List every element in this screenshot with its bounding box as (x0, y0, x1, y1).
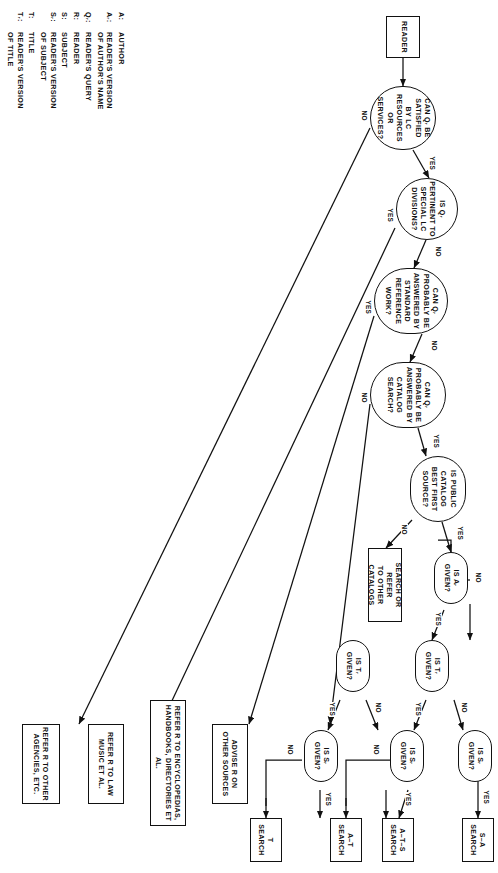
terminal-a-t-search[interactable]: A–T SEARCH (330, 818, 362, 862)
terminal-advise-other-sources-2[interactable]: ADVISE R ON OTHER SOURCES (212, 724, 248, 804)
edge-label-subject2-yes: YES (483, 790, 490, 805)
legend-key: S: (60, 12, 70, 32)
terminal-s-a-search-label: S–A SEARCH (469, 824, 487, 855)
edge-label-special-yes: YES (387, 208, 394, 223)
legend-item: Aᵣ: READER'S VERSION OF AUTHOR'S NAME (95, 12, 114, 312)
edge-label-catalog-yes: YES (433, 434, 440, 449)
flowchart-canvas: READER CAN Qᵣ BE SATISFIED BY LC RESOURC… (0, 0, 498, 873)
edge-label-subject3-no: NO (287, 744, 294, 755)
legend-item: T: TITLE (27, 12, 37, 312)
legend-key: Tᵣ: (15, 12, 25, 32)
edge-label-subject3-yes: YES (325, 792, 332, 807)
legend-value: AUTHOR (116, 32, 126, 312)
node-is-title-given-2[interactable]: IS Tᵣ GIVEN? (336, 640, 370, 692)
terminal-search-or-refer-catalogs-label: SEARCH OR REFER TO OTHER CATALOGS (367, 551, 404, 619)
edge-label-subject1-no: NO (373, 744, 380, 755)
diagram-rotation-wrapper: READER CAN Qᵣ BE SATISFIED BY LC RESOURC… (0, 0, 498, 873)
terminal-refer-encyclopedias[interactable]: REFER R TO ENCYCLOPEDIAS, HANDBOOKS, DIR… (150, 700, 186, 826)
node-is-subject-given-2-label: IS Sᵣ GIVEN? (466, 733, 485, 779)
terminal-refer-other-agencies[interactable]: REFER R TO OTHER AGENCIES, ETC. (22, 724, 60, 804)
legend-item: Sᵣ: READER'S VERSION OF SUBJECT (38, 12, 57, 312)
node-can-query-be-satisfied[interactable]: CAN Qᵣ BE SATISFIED BY LC RESOURCES OR S… (370, 86, 436, 150)
node-public-catalog-best-first-source-label: IS PUBLIC CATALOG BEST FIRST SOURCE? (419, 459, 456, 519)
node-reader[interactable]: READER (386, 16, 420, 58)
edge-label-public-yes: YES (457, 526, 464, 541)
node-is-title-given-1[interactable]: IS Tᵣ GIVEN? (415, 640, 449, 692)
node-is-subject-given-1[interactable]: IS Sᵣ GIVEN? (390, 730, 424, 782)
terminal-refer-law-music-label: REFER R TO LAW MUSIC ET AL. (97, 732, 115, 796)
node-is-title-given-2-label: IS Tᵣ GIVEN? (344, 643, 363, 689)
edge-label-satisfied-yes: YES (429, 156, 436, 171)
legend-value: READER'S VERSION OF SUBJECT (38, 32, 57, 312)
node-is-author-given-label: IS Aᵣ GIVEN? (442, 555, 461, 601)
node-can-query-be-satisfied-label: CAN Qᵣ BE SATISFIED BY LC RESOURCES OR S… (375, 89, 431, 147)
node-is-title-given-1-label: IS Tᵣ GIVEN? (423, 643, 442, 689)
node-standard-reference-work[interactable]: CAN Qᵣ PROBABLY BE ANSWERED BY STANDARD … (374, 268, 448, 334)
edge-label-standard-yes: YES (365, 300, 372, 315)
legend-item: R: READER (71, 12, 81, 312)
terminal-refer-other-agencies-label: REFER R TO OTHER AGENCIES, ETC. (32, 727, 50, 801)
edge-label-public-no: NO (401, 524, 408, 535)
edge-label-catalog-no: NO (361, 392, 368, 403)
legend-value: READER'S VERSION OF TITLE (5, 32, 24, 312)
terminal-a-t-s-search[interactable]: A–T–S SEARCH (382, 818, 414, 862)
node-is-subject-given-3-label: IS Sᵣ GIVEN? (312, 733, 331, 779)
edge-label-satisfied-no: NO (361, 110, 368, 121)
legend-value: READER'S QUERY (83, 32, 93, 312)
edge-label-title2-no: NO (375, 702, 382, 713)
edge-label-subject1-yes: YES (405, 792, 412, 807)
node-catalog-search-label: CAN Qᵣ PROBABLY BE ANSWERED BY CATALOG S… (385, 365, 432, 425)
edge-label-author-yes: YES (435, 612, 442, 627)
legend-block: A: AUTHOR Aᵣ: READER'S VERSION OF AUTHOR… (3, 12, 126, 312)
terminal-a-t-s-search-label: A–T–S SEARCH (389, 824, 407, 855)
legend-value: TITLE (27, 32, 37, 312)
terminal-s-a-search[interactable]: S–A SEARCH (462, 818, 494, 862)
terminal-t-search[interactable]: T SEARCH (250, 818, 282, 862)
legend-key: Qᵣ: (83, 12, 93, 32)
node-standard-reference-work-label: CAN Qᵣ PROBABLY BE ANSWERED BY STANDARD … (383, 271, 439, 331)
legend-value: READER (71, 32, 81, 312)
legend-key: Aᵣ: (105, 12, 115, 32)
terminal-refer-encyclopedias-label: REFER R TO ENCYCLOPEDIAS, HANDBOOKS, DIR… (154, 703, 182, 823)
node-query-pertinent-special-divisions[interactable]: IS Qᵣ PERTINENT TO SPECIAL LC DIVISIONS? (396, 178, 458, 240)
node-is-author-given[interactable]: IS Aᵣ GIVEN? (434, 552, 468, 604)
legend-key: T: (27, 12, 37, 32)
node-public-catalog-best-first-source[interactable]: IS PUBLIC CATALOG BEST FIRST SOURCE? (410, 456, 466, 522)
legend-key: A: (116, 12, 126, 32)
edge-label-special-no: NO (435, 246, 442, 257)
legend-item: A: AUTHOR (116, 12, 126, 312)
node-catalog-search[interactable]: CAN Qᵣ PROBABLY BE ANSWERED BY CATALOG S… (370, 362, 446, 428)
terminal-t-search-label: T SEARCH (257, 824, 275, 855)
node-reader-label: READER (398, 21, 407, 53)
legend-value: READER'S VERSION OF AUTHOR'S NAME (95, 32, 114, 312)
edge-label-title1-yes: YES (415, 702, 422, 717)
legend-item: S: SUBJECT (60, 12, 70, 312)
legend-item: Qᵣ: READER'S QUERY (83, 12, 93, 312)
terminal-refer-law-music[interactable]: REFER R TO LAW MUSIC ET AL. (88, 724, 124, 804)
edge-label-standard-no: NO (431, 340, 438, 351)
edge-label-author-no: NO (475, 572, 482, 583)
edge-label-title1-no: NO (461, 702, 468, 713)
legend-key: Sᵣ: (48, 12, 58, 32)
terminal-a-t-search-label: A–T SEARCH (337, 824, 355, 855)
node-query-pertinent-special-divisions-label: IS Qᵣ PERTINENT TO SPECIAL LC DIVISIONS? (408, 181, 445, 237)
edge-label-title2-yes: YES (329, 702, 336, 717)
node-is-subject-given-1-label: IS Sᵣ GIVEN? (398, 733, 417, 779)
legend-key: R: (71, 12, 81, 32)
terminal-advise-other-sources-2-label: ADVISE R ON OTHER SOURCES (221, 731, 239, 796)
node-is-subject-given-3[interactable]: IS Sᵣ GIVEN? (304, 730, 338, 782)
node-is-subject-given-2[interactable]: IS Sᵣ GIVEN? (458, 730, 492, 782)
legend-item: Tᵣ: READER'S VERSION OF TITLE (5, 12, 24, 312)
legend-value: SUBJECT (60, 32, 70, 312)
terminal-search-or-refer-catalogs[interactable]: SEARCH OR REFER TO OTHER CATALOGS (368, 548, 402, 622)
